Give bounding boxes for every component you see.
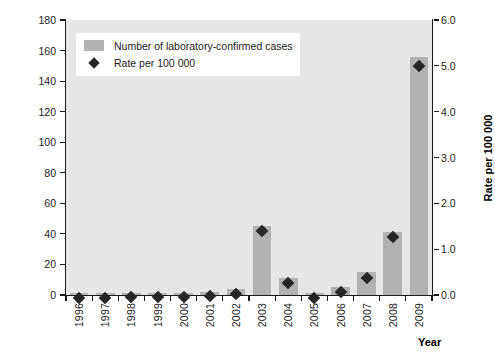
y-tick-label-left: 160 <box>38 45 56 57</box>
x-tick-label: 2009 <box>413 303 425 327</box>
y-tick-label-left: 80 <box>44 167 56 179</box>
x-tick <box>275 296 276 301</box>
y-tick-right <box>434 249 439 250</box>
y-tick-label-left: 60 <box>44 197 56 209</box>
legend-item-rate: Rate per 100 000 <box>84 54 294 71</box>
y-tick-left <box>60 172 65 173</box>
legend-label-cases: Number of laboratory-confirmed cases <box>114 40 293 52</box>
y-tick-right <box>434 19 439 20</box>
x-tick-label: 2005 <box>308 303 320 327</box>
x-tick <box>431 296 432 301</box>
y-tick-left <box>60 294 65 295</box>
y-tick-right <box>434 203 439 204</box>
y-tick-left <box>60 50 65 51</box>
x-tick-label: 1997 <box>99 303 111 327</box>
legend-label-rate: Rate per 100 000 <box>114 57 195 69</box>
x-tick <box>65 296 66 301</box>
y-tick-label-right: 0.0 <box>441 289 456 301</box>
y-tick-left <box>60 203 65 204</box>
diamond-swatch-icon <box>84 59 104 67</box>
x-tick <box>379 296 380 301</box>
y-tick-right <box>434 111 439 112</box>
x-tick-label: 1996 <box>73 303 85 327</box>
x-tick <box>301 296 302 301</box>
y-tick-right <box>434 294 439 295</box>
y-tick-label-right: 6.0 <box>441 14 456 26</box>
x-tick <box>118 296 119 301</box>
y-tick-label-left: 180 <box>38 14 56 26</box>
y-tick-label-right: 2.0 <box>441 197 456 209</box>
y-tick-label-right: 5.0 <box>441 60 456 72</box>
x-tick <box>222 296 223 301</box>
y-tick-label-left: 20 <box>44 258 56 270</box>
y-tick-label-left: 100 <box>38 136 56 148</box>
y-tick-label-right: 3.0 <box>441 152 456 164</box>
y-tick-label-right: 1.0 <box>441 243 456 255</box>
x-tick-label: 2003 <box>256 303 268 327</box>
y-tick-right <box>434 65 439 66</box>
y-tick-right <box>434 157 439 158</box>
x-tick <box>170 296 171 301</box>
x-tick <box>353 296 354 301</box>
x-tick <box>327 296 328 301</box>
chart-legend: Number of laboratory-confirmed cases Rat… <box>76 33 300 76</box>
x-tick-label: 2000 <box>178 303 190 327</box>
bar <box>410 57 429 295</box>
y-axis-title-right: Rate per 100 000 <box>483 115 495 202</box>
x-tick-label: 2002 <box>230 303 242 327</box>
y-tick-left <box>60 111 65 112</box>
bar-swatch-icon <box>84 40 104 51</box>
x-tick <box>248 296 249 301</box>
y-tick-label-left: 40 <box>44 228 56 240</box>
y-tick-label-right: 4.0 <box>441 106 456 118</box>
x-axis-title: Year <box>418 336 441 348</box>
x-tick <box>196 296 197 301</box>
legend-item-cases: Number of laboratory-confirmed cases <box>84 37 294 54</box>
x-tick-label: 1999 <box>152 303 164 327</box>
x-tick <box>92 296 93 301</box>
y-tick-label-left: 140 <box>38 75 56 87</box>
x-tick-label: 2004 <box>282 303 294 327</box>
y-tick-label-left: 120 <box>38 106 56 118</box>
y-tick-left <box>60 233 65 234</box>
x-tick <box>144 296 145 301</box>
x-tick-label: 2006 <box>335 303 347 327</box>
x-tick-label: 2007 <box>361 303 373 327</box>
x-tick-label: 2001 <box>204 303 216 327</box>
y-tick-label-left: 0 <box>50 289 56 301</box>
y-tick-left <box>60 264 65 265</box>
x-tick <box>405 296 406 301</box>
x-tick-label: 1998 <box>125 303 137 327</box>
y-tick-left <box>60 19 65 20</box>
x-tick-label: 2008 <box>387 303 399 327</box>
y-tick-left <box>60 142 65 143</box>
y-tick-left <box>60 81 65 82</box>
